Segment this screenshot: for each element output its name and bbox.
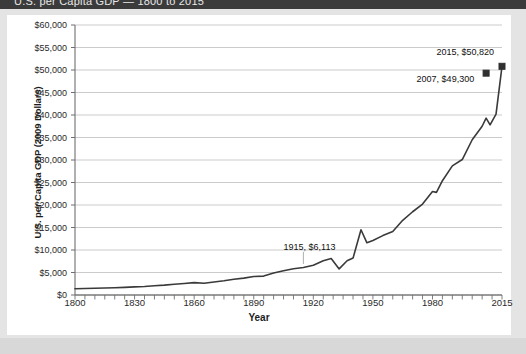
page-bottom-shade xyxy=(0,338,526,354)
data-point-marker xyxy=(499,63,505,69)
chart-card: U.S. per Capita GDP (2009 Dollars) Year … xyxy=(7,15,511,335)
x-axis-tick-label: 1980 xyxy=(422,297,443,308)
x-axis-tick-label: 1860 xyxy=(184,297,205,308)
x-axis-tick-label: 2015 xyxy=(491,297,512,308)
chart-annotation: 1915, $6,113 xyxy=(284,242,336,252)
chart-annotation: 2015, $50,820 xyxy=(436,47,494,57)
data-point-marker xyxy=(483,70,489,76)
x-axis-tick-label: 1950 xyxy=(362,297,383,308)
plot-area xyxy=(7,15,511,335)
window-title-text: U.S. per Capita GDP — 1800 to 2015 xyxy=(14,0,204,7)
x-axis-tick-label: 1890 xyxy=(243,297,264,308)
gdp-line-chart: U.S. per Capita GDP (2009 Dollars) Year … xyxy=(7,15,511,335)
window-top-strip: U.S. per Capita GDP — 1800 to 2015 xyxy=(0,0,526,9)
x-axis-tick-label: 1830 xyxy=(124,297,145,308)
chart-annotation: 2007, $49,300 xyxy=(417,74,475,84)
screenshot-root: U.S. per Capita GDP — 1800 to 2015 U.S. … xyxy=(0,0,526,354)
x-axis-tick-label: 1800 xyxy=(64,297,85,308)
gdp-series-line xyxy=(75,66,502,288)
x-axis-tick-label: 1920 xyxy=(303,297,324,308)
